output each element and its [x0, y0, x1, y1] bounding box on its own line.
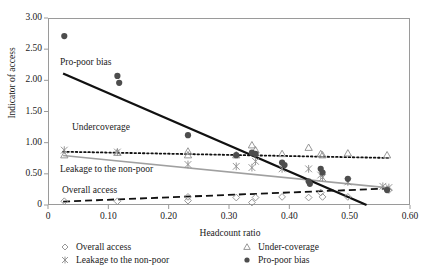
y-tick-label: 0.50 [4, 169, 42, 179]
triangle-open-icon [242, 242, 252, 252]
x-tick-label: 0.20 [149, 212, 189, 222]
x-tick-label: 0.40 [269, 212, 309, 222]
annotation-label: Pro-poor bias [60, 57, 111, 67]
annotation-label: Overall access [62, 185, 117, 195]
legend-label: Pro-poor bias [258, 255, 309, 265]
x-tick-label: 0.60 [390, 212, 425, 222]
legend-item: Under-coverage [242, 240, 410, 253]
annotation-label: Undercoverage [72, 122, 130, 132]
legend-item: Overall access [60, 240, 228, 253]
x-tick-label: 0 [28, 212, 68, 222]
legend-item: Pro-poor bias [242, 253, 410, 266]
legend-label: Overall access [76, 242, 131, 252]
y-axis-title: Indicator of access [7, 13, 17, 153]
legend-item: Leakage to the non-poor [60, 253, 228, 266]
legend-label: Under-coverage [258, 242, 319, 252]
x-tick-label: 0.10 [88, 212, 128, 222]
chart-legend: Overall accessUnder-coverageLeakage to t… [60, 240, 410, 266]
x-star-icon [60, 255, 70, 265]
x-axis-title: Headcount ratio [165, 228, 295, 238]
chart-container: 00.501.001.502.002.503.00 00.100.200.300… [0, 0, 425, 273]
x-tick-label: 0.30 [209, 212, 249, 222]
diamond-open-icon [60, 242, 70, 252]
annotation-label: Leakage to the non-poor [60, 164, 153, 174]
x-tick-label: 0.50 [330, 212, 370, 222]
plot-area [48, 18, 410, 205]
y-tick-label: 0 [4, 200, 42, 210]
legend-label: Leakage to the non-poor [76, 255, 169, 265]
circle-filled-icon [242, 255, 252, 265]
